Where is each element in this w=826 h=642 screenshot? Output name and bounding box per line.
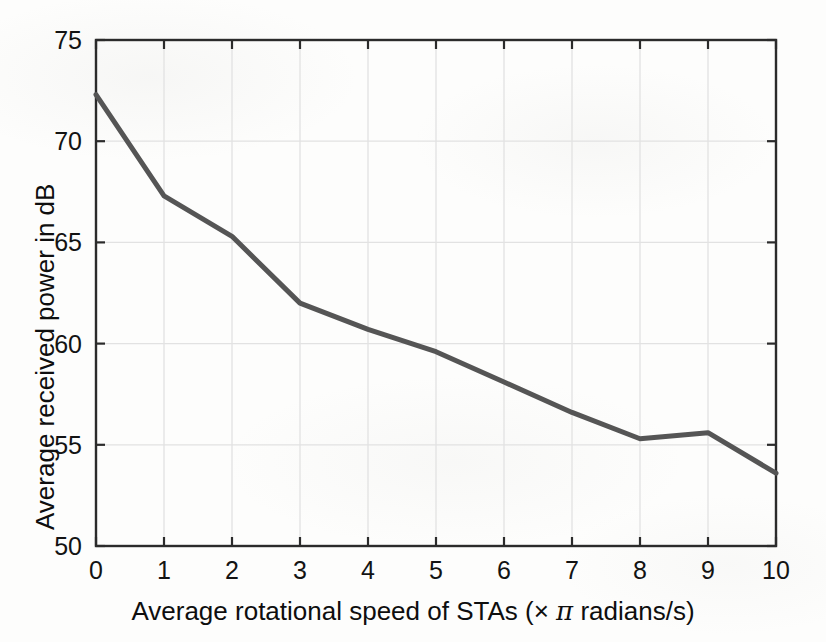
grid-vertical: [164, 40, 708, 546]
x-tick-label: 3: [293, 556, 307, 585]
x-axis-title-prefix: Average rotational speed of STAs (×: [131, 596, 556, 626]
x-tick-label: 2: [225, 556, 239, 585]
figure-container: 505560657075 012345678910 Average rotati…: [0, 0, 826, 642]
pi-symbol: π: [556, 596, 573, 626]
x-tick-label: 0: [89, 556, 103, 585]
y-tick-label: 75: [20, 26, 82, 55]
x-tick-label: 5: [429, 556, 443, 585]
x-tick-label: 8: [633, 556, 647, 585]
x-tick-label: 1: [157, 556, 171, 585]
line-chart-plot: [0, 0, 826, 642]
y-tick-label: 70: [20, 127, 82, 156]
x-axis-title-suffix: radians/s): [573, 596, 694, 626]
y-tick-label: 50: [20, 532, 82, 561]
x-tick-label: 6: [497, 556, 511, 585]
x-tick-label: 4: [361, 556, 375, 585]
y-axis-title: Average received power in dB: [30, 184, 61, 530]
x-axis-title: Average rotational speed of STAs (× π ra…: [0, 596, 826, 627]
x-tick-label: 7: [565, 556, 579, 585]
x-tick-label: 9: [701, 556, 715, 585]
x-tick-label: 10: [762, 556, 790, 585]
